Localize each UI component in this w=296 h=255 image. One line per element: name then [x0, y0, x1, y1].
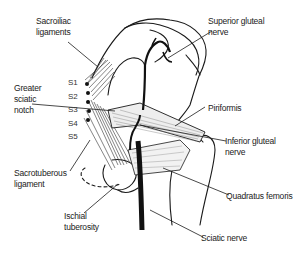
iliac-crest-rim	[186, 55, 200, 75]
label-sacroiliac-ligaments: Sacroiliac ligaments	[36, 16, 71, 38]
sacral-level-s4: S4	[68, 119, 78, 128]
label-superior-gluteal-nerve: Superior gluteal nerve	[208, 16, 264, 38]
label-piriformis: Piriformis	[208, 103, 241, 114]
label-ischial-tuberosity: Ischial tuberosity	[64, 211, 99, 233]
label-sciatic-nerve: Sciatic nerve	[201, 233, 247, 244]
ischial-dashed	[81, 168, 120, 187]
sciatic-notch-curve	[108, 58, 145, 95]
label-sacrotuberous-ligament: Sacrotuberous ligament	[14, 168, 67, 190]
label-quadratus-femoris: Quadratus femoris	[226, 191, 293, 202]
piriformis-muscle	[108, 103, 205, 142]
label-greater-sciatic-notch: Greater sciatic notch	[14, 83, 41, 116]
femur-outline	[195, 135, 215, 225]
iliac-crest-inner	[125, 23, 199, 75]
sacral-level-s2: S2	[68, 92, 78, 101]
ischial-tuberosity	[103, 159, 136, 190]
sacral-level-s3: S3	[68, 105, 78, 114]
anatomy-illustration	[0, 0, 296, 255]
label-inferior-gluteal-nerve: Inferior gluteal nerve	[225, 136, 276, 158]
sacral-foramina	[85, 82, 91, 122]
sacral-level-s1: S1	[68, 78, 78, 87]
femur-inner	[170, 170, 172, 225]
sacral-level-s5: S5	[68, 132, 78, 141]
sciatic-nerve	[138, 141, 142, 230]
